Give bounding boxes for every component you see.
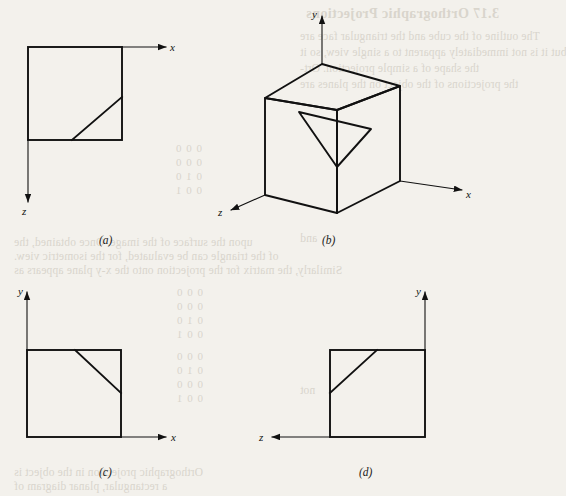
panel-c-notch-edge xyxy=(75,350,121,393)
panel-c-x-axis-label: x xyxy=(171,431,176,443)
panel-a-drawing xyxy=(28,47,166,202)
panel-b-x-axis xyxy=(400,181,462,190)
panel-c-square xyxy=(27,350,121,437)
panel-b-caption: (b) xyxy=(322,234,335,246)
panel-b-drawing xyxy=(231,16,462,213)
panel-d-y-axis-label: y xyxy=(416,285,421,297)
panel-d-z-axis-label: z xyxy=(259,431,263,443)
panel-d-square xyxy=(330,350,425,437)
panel-d-caption: (d) xyxy=(359,466,372,478)
panel-a-x-axis-label: x xyxy=(170,41,175,53)
cube-top-face xyxy=(265,64,400,110)
panel-a-caption: (a) xyxy=(99,234,112,246)
cube-notch-triangle xyxy=(299,112,371,167)
panel-a-notch-edge xyxy=(72,97,122,140)
panel-c-y-axis-label: y xyxy=(18,285,23,297)
panel-b-z-axis xyxy=(231,195,265,210)
panel-b-z-axis-label: z xyxy=(218,206,222,218)
panel-d-drawing xyxy=(272,292,425,437)
panel-c-caption: (c) xyxy=(99,466,112,478)
panel-b-y-axis-label: y xyxy=(312,8,317,20)
panel-a-square xyxy=(28,47,122,140)
panel-c-drawing xyxy=(27,292,166,437)
panel-d-notch-edge xyxy=(330,350,377,393)
cube-right-face xyxy=(337,86,400,213)
panel-b-x-axis-label: x xyxy=(466,188,471,200)
panel-a-z-axis-label: z xyxy=(22,205,26,217)
